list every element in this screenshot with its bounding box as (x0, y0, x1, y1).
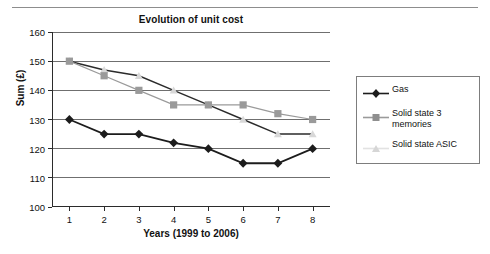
chart-legend: Gas Solid state 3 memories Solid state A… (356, 76, 480, 164)
legend-label-gas: Gas (389, 84, 409, 95)
data-point-triangle (170, 87, 178, 94)
data-point-diamond (65, 115, 74, 124)
data-point-diamond (273, 159, 282, 168)
y-tick-label: 110 (30, 172, 45, 183)
y-tick-label: 100 (29, 202, 45, 213)
x-tick-label: 3 (136, 214, 141, 225)
chart-title: Evolution of unit cost (52, 14, 330, 25)
data-point-square (66, 58, 73, 65)
data-point-square (170, 101, 177, 108)
chart-page: Evolution of unit cost Sum (£) Years (19… (0, 0, 490, 254)
x-tick-mark (278, 207, 279, 211)
y-axis-title: Sum (£) (15, 70, 26, 107)
data-point-diamond (134, 130, 143, 139)
legend-item-gas[interactable]: Gas (363, 84, 475, 96)
y-tick-label: 160 (29, 27, 45, 38)
x-tick-label: 8 (310, 214, 315, 225)
data-point-diamond (239, 159, 248, 168)
top-divider (12, 7, 478, 8)
data-point-square (205, 101, 212, 108)
x-tick-label: 7 (275, 214, 280, 225)
legend-label-solid-state-3-memories: Solid state 3 memories (389, 108, 475, 129)
data-point-diamond (100, 130, 109, 139)
x-tick-mark (104, 207, 105, 211)
data-point-diamond (169, 138, 178, 147)
series-solid-state-3-memories (66, 58, 316, 124)
x-tick-mark (69, 207, 70, 211)
legend-key-triangle-icon (363, 140, 389, 151)
legend-item-solid-state-asic[interactable]: Solid state ASIC (363, 139, 475, 151)
y-tick-label: 120 (29, 143, 45, 154)
data-point-square (135, 87, 142, 94)
legend-key-diamond-icon (363, 85, 389, 96)
data-point-diamond (308, 144, 317, 153)
data-point-square (240, 101, 247, 108)
y-tick-label: 150 (29, 56, 45, 67)
y-tick-label: 140 (29, 85, 45, 96)
series-solid-state-asic (65, 57, 316, 137)
x-tick-mark (174, 207, 175, 211)
series-gas (65, 115, 317, 168)
x-tick-mark (243, 207, 244, 211)
data-point-square (101, 72, 108, 79)
x-tick-mark (139, 207, 140, 211)
x-tick-label: 4 (171, 214, 176, 225)
data-point-square (274, 110, 281, 117)
x-tick-label: 5 (206, 214, 211, 225)
legend-label-solid-state-asic: Solid state ASIC (389, 139, 457, 150)
plot-area: 100110120130140150160 12345678 (52, 32, 330, 207)
series-line (69, 120, 312, 164)
x-tick-label: 1 (67, 214, 72, 225)
legend-item-solid-state-3-memories[interactable]: Solid state 3 memories (363, 108, 475, 129)
data-point-square (309, 116, 316, 123)
x-tick-mark (208, 207, 209, 211)
x-tick-label: 2 (101, 214, 106, 225)
x-tick-mark (313, 207, 314, 211)
y-tick-label: 130 (29, 114, 45, 125)
x-tick-label: 6 (240, 214, 245, 225)
data-point-triangle (239, 116, 247, 123)
series-plot (52, 32, 330, 207)
x-axis-title: Years (1999 to 2006) (52, 228, 330, 239)
legend-key-square-icon (363, 109, 389, 120)
data-point-diamond (204, 144, 213, 153)
